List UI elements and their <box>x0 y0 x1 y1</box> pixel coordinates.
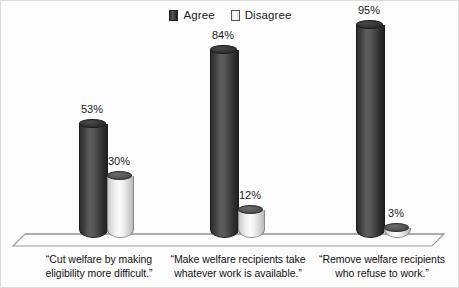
bar-body <box>107 176 134 238</box>
bar-value-agree-group-3: 95% <box>346 5 392 16</box>
bar-body <box>356 25 385 238</box>
category-label-3-line-1: “Remove welfare recipients <box>307 253 457 267</box>
bar-disagree-group-1[interactable] <box>107 171 132 237</box>
bar-agree-group-1[interactable] <box>79 119 106 237</box>
bar-top-ellipse <box>238 205 263 214</box>
bar-body <box>79 124 108 238</box>
category-label-2: “Make welfare recipients take whatever w… <box>155 253 321 280</box>
bar-top-ellipse <box>356 20 383 29</box>
bar-value-agree-group-2: 84% <box>200 30 246 41</box>
category-label-2-line-1: “Make welfare recipients take <box>155 253 321 267</box>
category-label-2-line-2: whatever work is available.” <box>155 267 321 281</box>
category-label-1-line-2: eligibility more difficult.” <box>23 267 175 281</box>
category-label-1-line-1: “Cut welfare by making <box>23 253 175 267</box>
bar-value-disagree-group-1: 30% <box>96 156 142 167</box>
bar-agree-group-2[interactable] <box>210 45 237 237</box>
bar-value-disagree-group-2: 12% <box>227 190 273 201</box>
bar-top-ellipse <box>384 223 409 232</box>
bar-top-ellipse <box>107 171 132 180</box>
category-label-3-line-2: who refuse to work.” <box>307 267 457 281</box>
bar-agree-group-3[interactable] <box>356 20 383 237</box>
bar-top-ellipse <box>210 45 237 54</box>
bar-disagree-group-3[interactable] <box>384 223 409 237</box>
bar-body <box>238 210 265 238</box>
chart-plot-area: 53% 30% 84% 12% 95% 3% <box>1 1 459 288</box>
bar-disagree-group-2[interactable] <box>238 205 263 237</box>
bar-top-ellipse <box>79 119 106 128</box>
category-label-3: “Remove welfare recipients who refuse to… <box>307 253 457 280</box>
bar-value-disagree-group-3: 3% <box>373 208 419 219</box>
chart-container: Agree Disagree 53% 30% 84% <box>0 0 459 288</box>
category-label-1: “Cut welfare by making eligibility more … <box>23 253 175 280</box>
bar-value-agree-group-1: 53% <box>69 104 115 115</box>
bar-body <box>210 50 239 238</box>
